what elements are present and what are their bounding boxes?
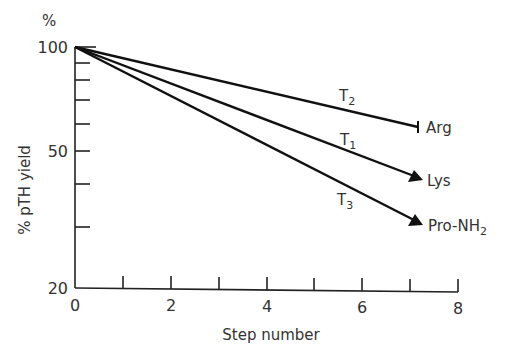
x-tick-8: 8 [453, 299, 463, 318]
series-pro-arrow-icon [408, 214, 423, 226]
series-lys-arrow-icon [408, 170, 423, 182]
series-label-lys: Lys [427, 172, 451, 190]
series-label-arg: Arg [426, 119, 452, 137]
series-arg-line [75, 47, 418, 127]
x-tick-0: 0 [70, 296, 80, 315]
y-tick-50: 50 [48, 142, 68, 161]
y-tick-100: 100 [37, 38, 68, 57]
y-axis-title: % pTH yield [16, 145, 34, 235]
x-tick-2: 2 [166, 296, 176, 315]
y-tick-20: 20 [48, 279, 68, 298]
series-lys-line [75, 47, 414, 176]
yield-chart: % 100 50 20 0 2 4 6 8 Step number % pTH … [0, 0, 514, 352]
tag-t1: T1 [339, 131, 356, 152]
tag-t2: T2 [338, 87, 355, 108]
series-pro-line [75, 47, 414, 220]
series-lines [75, 47, 423, 226]
axes [75, 47, 458, 292]
x-tick-6: 6 [357, 298, 367, 317]
series-label-pro: Pro-NH2 [428, 217, 487, 238]
x-tick-4: 4 [262, 297, 272, 316]
tag-t3: T3 [336, 191, 353, 212]
y-unit-label: % [42, 12, 56, 30]
x-axis-title: Step number [222, 326, 320, 344]
